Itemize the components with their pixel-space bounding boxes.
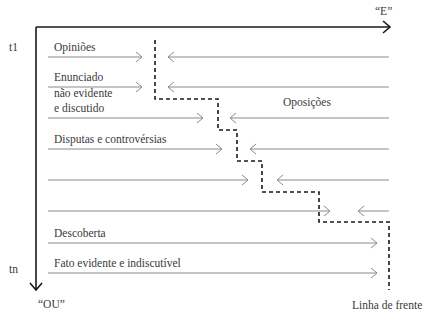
arrow-rows bbox=[48, 52, 389, 278]
front-line-dashed-path bbox=[155, 40, 389, 290]
oppositions-label: Oposições bbox=[283, 96, 331, 109]
time-start-label: t1 bbox=[9, 41, 18, 54]
row-label-disputas: Disputas e controvérsias bbox=[54, 133, 166, 146]
row-label-descoberta: Descoberta bbox=[54, 227, 106, 240]
ou-axis-label: “OU” bbox=[38, 298, 65, 311]
row-label-opinioes: Opiniões bbox=[54, 41, 96, 54]
row-label-enunciado-line1: Enunciado bbox=[54, 71, 103, 84]
front-line-label: Linha de frente bbox=[352, 299, 422, 312]
axes bbox=[30, 21, 390, 290]
row-label-fato: Fato evidente e indiscutível bbox=[54, 257, 181, 270]
time-end-label: tn bbox=[9, 263, 18, 276]
row-label-enunciado-line2: não evidente bbox=[54, 87, 112, 100]
row-label-enunciado-line3: e discutido bbox=[54, 102, 104, 115]
debate-diagram: “E” “OU” t1 tn Opiniões Enunciado não ev… bbox=[0, 0, 437, 321]
e-axis-label: “E” bbox=[375, 5, 392, 18]
